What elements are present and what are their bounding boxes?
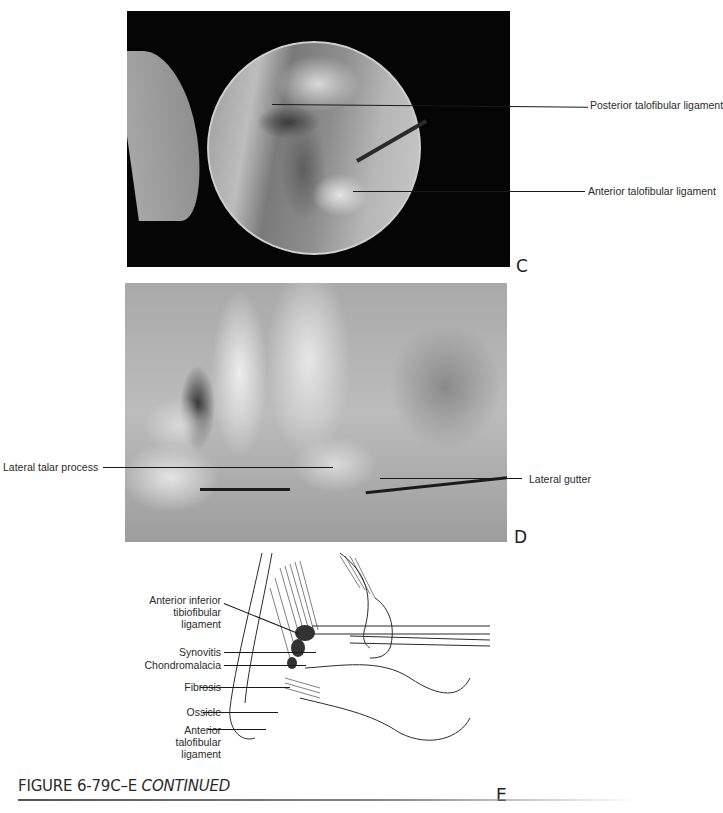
label-chondromalacia: Chondromalacia — [130, 659, 221, 671]
tissue-fold — [127, 51, 209, 221]
panel-d-cadaver-photo — [125, 283, 507, 542]
panel-letter-c: C — [516, 256, 528, 276]
label-synovitis: Synovitis — [130, 646, 221, 658]
panel-e-ankle-illustration — [200, 548, 500, 748]
caption-number: FIGURE 6-79C–E — [18, 777, 137, 795]
label-posterior-talofibular-ligament: Posterior talofibular ligament — [590, 99, 723, 111]
leader-chondromalacia — [224, 665, 306, 666]
panel-c-arthroscopic-image — [127, 11, 510, 267]
panel-letter-d: D — [514, 527, 527, 547]
probe-instrument — [356, 119, 427, 162]
label-lateral-talar-process: Lateral talar process — [3, 461, 98, 473]
caption-continued: CONTINUED — [142, 777, 231, 795]
leader-anterior-talofibular — [353, 191, 585, 192]
leader-ossicle — [203, 712, 278, 713]
label-anterior-talofibular-ligament: Anterior talofibular ligament — [588, 185, 716, 197]
arthroscope-view-circle — [207, 41, 421, 255]
label-anterior-inferior-tibiofibular-ligament: Anterior inferior tibiofibular ligament — [130, 594, 221, 630]
leader-atfl-e — [208, 729, 266, 730]
leader-lateral-talar-process — [103, 467, 333, 468]
leader-lateral-gutter — [380, 478, 522, 479]
panel-letter-e: E — [496, 785, 507, 805]
leader-fibrosis — [200, 687, 290, 688]
forceps-instrument — [200, 488, 290, 491]
label-lateral-gutter: Lateral gutter — [529, 473, 591, 485]
caption-rule — [18, 799, 638, 801]
leader-synovitis — [224, 652, 316, 653]
figure-caption: FIGURE 6-79C–E CONTINUED — [18, 777, 230, 795]
